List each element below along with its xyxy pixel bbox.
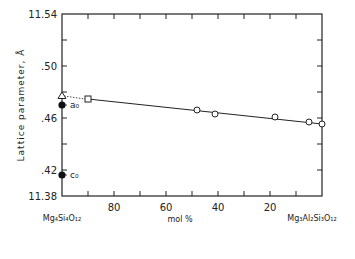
circle-marker: [272, 114, 278, 120]
x-tick-label: 20: [264, 202, 277, 213]
top-ticks: [88, 14, 296, 19]
y-tick-label: .50: [41, 61, 57, 72]
fit-line: [88, 99, 322, 124]
x-left-end-label: Mg₄Si₄O₁₂: [43, 214, 81, 223]
circle-marker: [194, 107, 200, 113]
x-tick-label: 80: [108, 202, 121, 213]
circle-marker: [306, 119, 312, 125]
triangle-marker: [58, 92, 66, 99]
y-tick-label: .46: [41, 113, 57, 124]
x-right-end-label: Mg₃Al₂Si₃O₁₂: [287, 214, 336, 223]
x-tick-label: 60: [160, 202, 173, 213]
square-marker: [85, 96, 91, 102]
y-axis-title: Lattice parameter, Å: [15, 49, 26, 162]
y-tick-label: 11.38: [28, 191, 57, 202]
circle-marker: [212, 111, 218, 117]
bottom-ticks: [88, 191, 296, 196]
x-axis-title: mol %: [167, 215, 192, 224]
dashed-connector: [64, 96, 85, 99]
c0-marker: [58, 171, 65, 178]
circle-marker: [319, 121, 325, 127]
x-tick-label: 40: [212, 202, 225, 213]
a0-label: a₀: [70, 100, 80, 110]
y-tick-label: .42: [41, 165, 57, 176]
chart-canvas: 11.54 .50 .46 .42 11.38 80 60 40 20 mol …: [0, 0, 355, 259]
a0-marker: [58, 101, 65, 108]
plot-frame: [62, 14, 322, 196]
right-ticks: [317, 40, 322, 170]
c0-label: c₀: [70, 170, 79, 180]
y-tick-label: 11.54: [28, 9, 57, 20]
